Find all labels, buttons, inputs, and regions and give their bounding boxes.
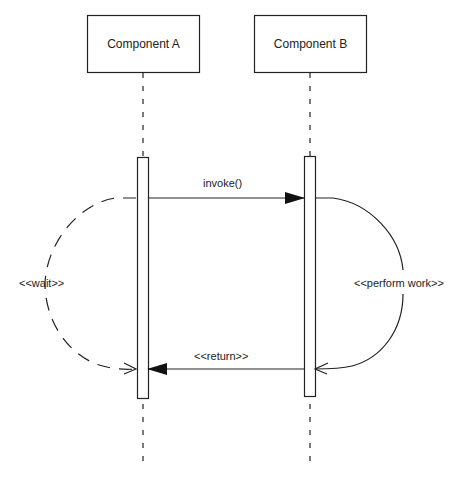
wait-annotation-label: <<wait>> <box>19 277 64 290</box>
return-message-label: <<return>> <box>194 350 248 363</box>
invoke-message-label: invoke() <box>203 177 242 190</box>
participant-label-a: Component A <box>87 37 200 51</box>
activation-bar-b <box>305 157 316 397</box>
perform-work-annotation-label: <<perform work>> <box>354 277 444 290</box>
participant-label-b: Component B <box>254 37 367 51</box>
activation-bar-a <box>138 158 149 399</box>
wait-arc-arrowhead <box>124 363 136 374</box>
sequence-diagram <box>0 0 457 482</box>
